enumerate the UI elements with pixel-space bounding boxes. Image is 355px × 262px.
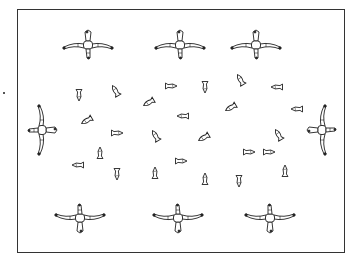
figure-bottom-1-figure-icon: [55, 204, 105, 233]
fish-icon: [291, 106, 303, 112]
fish-icon: [236, 176, 242, 188]
fish-icon: [110, 84, 121, 97]
fish-icon: [142, 97, 155, 108]
fish-icon: [235, 73, 246, 86]
fish-icon: [224, 102, 237, 113]
fish-icon: [150, 129, 161, 142]
pond-diagram: [0, 0, 355, 262]
figure-top-1-figure-icon: [63, 30, 113, 59]
figure-top-2-figure-icon: [155, 30, 205, 59]
fish-icon: [282, 165, 288, 177]
fish-icon: [152, 167, 158, 179]
fish-icon: [202, 82, 208, 94]
fish-icon: [271, 84, 283, 90]
fish-icon: [176, 158, 188, 164]
pond-artwork: [0, 0, 355, 262]
fish-icon: [197, 132, 210, 143]
figure-right-figure-icon: [307, 105, 336, 155]
fish-icon: [72, 162, 84, 168]
fish-icon: [244, 149, 256, 155]
fish-icon: [80, 115, 93, 126]
fish-icon: [97, 147, 103, 159]
fish-icon: [114, 169, 120, 181]
figure-bottom-3-figure-icon: [245, 204, 295, 233]
fish-icon: [202, 173, 208, 185]
fish-icon: [112, 130, 124, 136]
figure-top-3-figure-icon: [231, 30, 281, 59]
fish-icon: [177, 113, 189, 119]
fish-icon: [166, 83, 178, 89]
fish-icon: [273, 128, 284, 141]
fish-icon: [264, 149, 276, 155]
fish-icon: [76, 90, 82, 102]
figure-left-figure-icon: [28, 105, 57, 155]
figure-bottom-2-figure-icon: [153, 204, 203, 233]
